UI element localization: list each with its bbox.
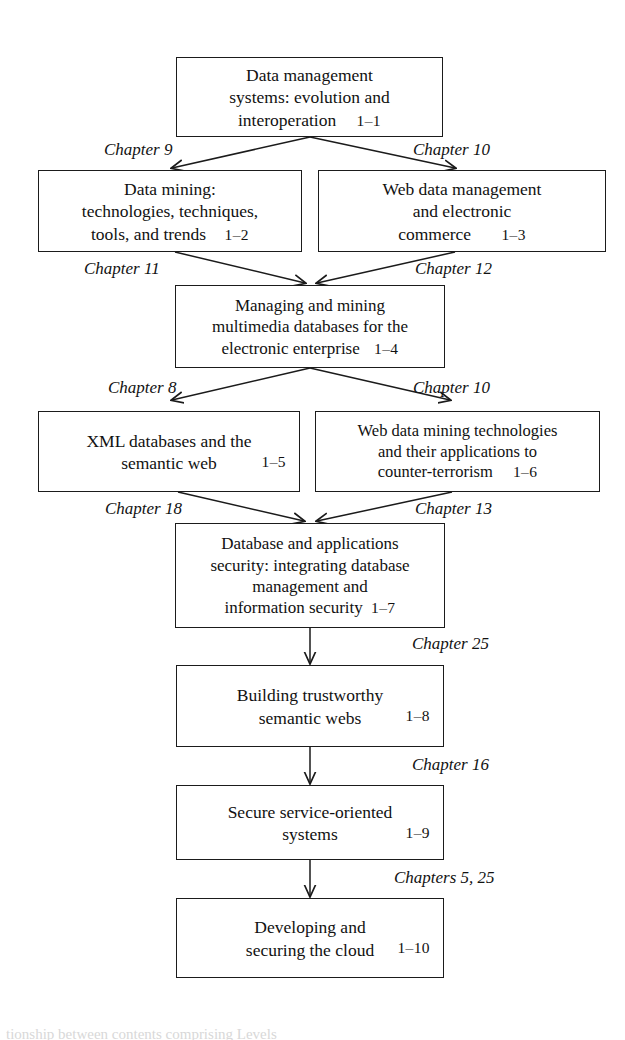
node-line: systems <box>183 823 437 845</box>
node-line: tools, and trends <box>91 224 206 244</box>
node-tag: 1–1 <box>357 112 381 129</box>
node-line-last: information security 1–7 <box>182 597 438 618</box>
node-line: systems: evolution and <box>183 86 436 108</box>
clipped-caption: tionship between contents comprising Lev… <box>6 1026 625 1040</box>
node-line: semantic webs <box>183 707 437 729</box>
edge-1-1-to-1-2 <box>172 137 310 168</box>
node-tag: 1–2 <box>225 226 249 243</box>
node-web-data-management[interactable]: Web data management and electronic comme… <box>318 170 606 252</box>
node-line-last: interoperation 1–1 <box>183 109 436 131</box>
node-xml-databases-semantic-web[interactable]: XML databases and the semantic web 1–5 <box>38 411 300 492</box>
edge-label-chapter-13: Chapter 13 <box>415 499 492 519</box>
edge-label-chapter-9: Chapter 9 <box>104 140 172 160</box>
node-line: and electronic <box>325 200 599 222</box>
edge-1-2-to-1-4 <box>175 252 305 283</box>
node-line-last: electronic enterprise 1–4 <box>182 338 438 359</box>
edge-label-chapter-25: Chapter 25 <box>412 634 489 654</box>
edge-label-chapter-10-upper: Chapter 10 <box>413 140 490 160</box>
node-line: Data management <box>183 64 436 86</box>
node-line: management and <box>182 576 438 597</box>
edge-label-chapter-16: Chapter 16 <box>412 755 489 775</box>
edge-label-chapters-5-25: Chapters 5, 25 <box>394 868 495 888</box>
node-line: Data mining: <box>45 178 295 200</box>
node-tag: 1–4 <box>374 340 398 357</box>
edge-label-chapter-18: Chapter 18 <box>105 499 182 519</box>
node-tag: 1–6 <box>513 463 537 480</box>
node-line: multimedia databases for the <box>182 316 438 337</box>
node-line: counter-terrorism <box>378 462 493 481</box>
node-developing-securing-cloud[interactable]: Developing and securing the cloud 1–10 <box>176 898 444 978</box>
node-line: security: integrating database <box>182 555 438 576</box>
node-tag: 1–5 <box>262 452 286 472</box>
node-line-last: counter-terrorism 1–6 <box>322 462 593 483</box>
node-line: Secure service-oriented <box>183 801 437 823</box>
node-tag: 1–7 <box>371 599 395 616</box>
node-line: information security <box>224 598 362 617</box>
edge-label-chapter-12: Chapter 12 <box>415 259 492 279</box>
node-web-data-mining-counter-terrorism[interactable]: Web data mining technologies and their a… <box>315 411 600 492</box>
node-line: and their applications to <box>322 442 593 463</box>
edge-1-4-to-1-5 <box>172 368 310 400</box>
node-line: Building trustworthy <box>183 684 437 706</box>
node-line-last: tools, and trends 1–2 <box>45 223 295 245</box>
node-line: Database and applications <box>182 533 438 554</box>
node-data-management-systems[interactable]: Data management systems: evolution and i… <box>176 57 443 137</box>
node-database-applications-security[interactable]: Database and applications security: inte… <box>175 523 445 628</box>
node-building-trustworthy-semantic-webs[interactable]: Building trustworthy semantic webs 1–8 <box>176 665 444 747</box>
node-managing-mining-multimedia[interactable]: Managing and mining multimedia databases… <box>175 285 445 368</box>
node-tag: 1–9 <box>406 823 430 843</box>
edge-label-chapter-11: Chapter 11 <box>84 259 160 279</box>
node-line: technologies, techniques, <box>45 200 295 222</box>
node-secure-service-oriented-systems[interactable]: Secure service-oriented systems 1–9 <box>176 785 444 860</box>
node-line: commerce <box>398 224 471 244</box>
edge-label-chapter-10-lower: Chapter 10 <box>413 378 490 398</box>
node-line: electronic enterprise <box>222 339 360 358</box>
edge-label-chapter-8: Chapter 8 <box>108 378 176 398</box>
node-line: semantic web <box>45 452 293 474</box>
node-line-last: commerce 1–3 <box>325 223 599 245</box>
node-line: interoperation <box>238 110 336 130</box>
node-line: XML databases and the <box>45 430 293 452</box>
node-data-mining[interactable]: Data mining: technologies, techniques, t… <box>38 170 302 252</box>
node-tag: 1–8 <box>406 706 430 726</box>
node-line: Managing and mining <box>182 295 438 316</box>
edge-1-5-to-1-7 <box>178 492 304 521</box>
node-tag: 1–3 <box>501 226 525 243</box>
node-line: Web data management <box>325 178 599 200</box>
node-tag: 1–10 <box>397 938 430 958</box>
node-line: Web data mining technologies <box>322 421 593 442</box>
node-line: Developing and <box>183 916 437 938</box>
